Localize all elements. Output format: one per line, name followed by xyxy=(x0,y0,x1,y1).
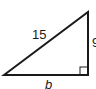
hypotenuse-label: 15 xyxy=(32,28,46,41)
right-triangle xyxy=(4,12,88,75)
base-label: b xyxy=(45,78,52,89)
triangle-diagram xyxy=(0,0,96,89)
vertical-leg-label: 9 xyxy=(92,36,96,49)
right-angle-marker xyxy=(80,67,88,75)
